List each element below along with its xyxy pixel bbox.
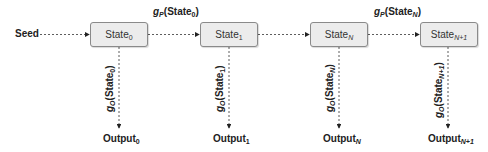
output-label-n: OutputN (323, 133, 361, 144)
state-label: StateN (325, 29, 353, 40)
output-function-label-n: gO(StateN) (324, 64, 335, 112)
state-label: State0 (105, 29, 132, 40)
output-label-0: Output0 (103, 133, 140, 144)
output-function-label-1: gO(State1) (214, 65, 225, 112)
output-function-label-n-plus-1: gO(StateN+1) (433, 62, 444, 118)
state-box-0: State0 (90, 22, 148, 47)
seed-label: Seed (15, 28, 39, 39)
transition-label-gp-stateN: gP(StateN) (374, 6, 421, 17)
state-label: State1 (215, 29, 242, 40)
state-label: StateN+1 (431, 29, 467, 40)
output-label-n-plus-1: OutputN+1 (428, 133, 474, 144)
state-box-n: StateN (310, 22, 368, 47)
output-label-1: Output1 (213, 133, 250, 144)
transition-label-gp-state0: gP(State0) (153, 6, 199, 17)
state-box-n-plus-1: StateN+1 (420, 22, 478, 47)
diagram-canvas: Seed gP(State0) gP(StateN) State0 State1… (0, 0, 488, 152)
output-function-label-0: gO(State0) (104, 65, 115, 112)
state-box-1: State1 (200, 22, 258, 47)
